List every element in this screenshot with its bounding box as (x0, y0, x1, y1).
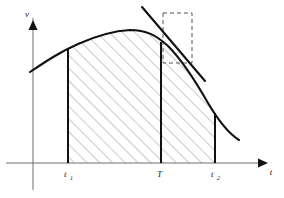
tick-label-t2-base: t (211, 169, 214, 179)
tick-label-t1-sub: 1 (70, 175, 73, 181)
tick-label-t1: t 1 (64, 169, 73, 181)
hatch-fill (60, 20, 225, 170)
tick-label-T-base: T (157, 169, 163, 179)
tick-label-t1-base: t (64, 169, 67, 179)
v-axis-label: v (25, 9, 29, 19)
t-axis-label: t (270, 167, 273, 177)
t-axis-arrowhead (258, 159, 268, 168)
tick-label-t2: t 2 (211, 169, 220, 181)
v-axis-arrowhead (29, 20, 38, 30)
figure-container: v t t 1 T t 2 (0, 0, 284, 198)
velocity-time-figure: v t t 1 T t 2 (0, 0, 284, 198)
tick-label-t2-sub: 2 (217, 175, 220, 181)
shaded-area-under-curve (60, 20, 225, 170)
tick-label-T: T (157, 169, 163, 179)
